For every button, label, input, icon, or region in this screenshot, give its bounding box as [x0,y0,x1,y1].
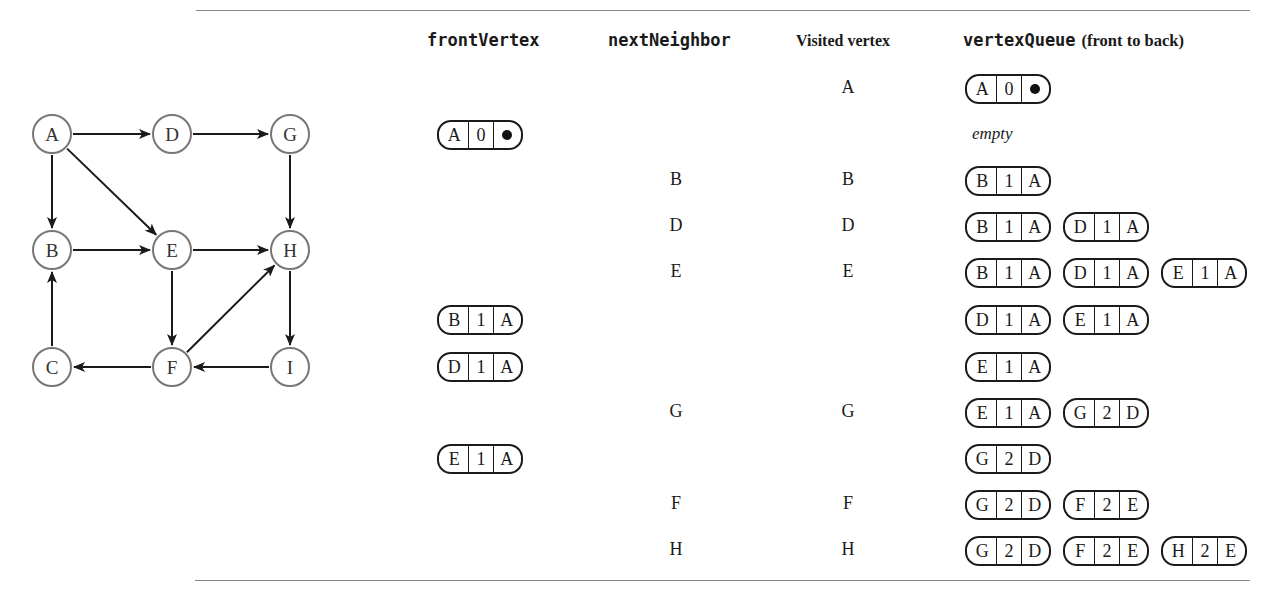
cropped-caption-fragment [890,0,950,1]
pill-predecessor: A [1022,260,1049,286]
queue-node: B1A [965,212,1051,242]
pill-length: 1 [468,307,495,333]
header-vertex-queue-label: vertexQueue [963,30,1076,50]
pill-predecessor: A [1022,400,1049,426]
pill-length: 2 [996,446,1023,472]
pill-length: 2 [1094,538,1121,564]
pill-vertex: G [967,538,996,564]
front-vertex-node: E1A [437,444,523,474]
next-neighbor-cell: B [666,169,686,190]
queue-node: F2E [1063,490,1149,520]
table-row: B1AD1AE1A [0,304,1282,334]
next-neighbor-cell: G [666,401,686,422]
vertex-queue-cell: G2DF2E [965,490,1149,520]
pill-length: 1 [1192,260,1219,286]
vertex-queue-cell: A0 [965,74,1051,104]
queue-node: G2D [965,444,1051,474]
pill-vertex: H [1163,538,1192,564]
pill-vertex: E [1065,307,1094,333]
pill-predecessor: A [494,354,521,380]
pill-predecessor [494,122,521,148]
visited-vertex-cell: B [838,169,858,190]
table-row: HHG2DF2EH2E [0,535,1282,565]
front-vertex-cell: A0 [437,120,523,150]
table-row: GGE1AG2D [0,397,1282,427]
pill-vertex: E [967,400,996,426]
pill-vertex: E [439,446,468,472]
front-vertex-cell: B1A [437,305,523,335]
pill-length: 1 [996,168,1023,194]
visited-vertex-cell: H [838,539,858,560]
pill-predecessor: D [1120,400,1147,426]
pill-vertex: E [1163,260,1192,286]
vertex-queue-cell: G2DF2EH2E [965,536,1247,566]
pill-predecessor: A [1120,260,1147,286]
pill-length: 2 [1192,538,1219,564]
visited-vertex-cell: D [838,215,858,236]
queue-empty-label: empty [972,124,1013,144]
bottom-rule [195,580,1250,581]
vertex-queue-cell: B1AD1AE1A [965,258,1247,288]
queue-node: E1A [965,352,1051,382]
vertex-queue-cell: E1AG2D [965,398,1149,428]
null-pointer-dot-icon [1030,84,1040,94]
pill-vertex: G [967,446,996,472]
queue-node: G2D [965,490,1051,520]
queue-node: H2E [1161,536,1247,566]
pill-length: 1 [996,214,1023,240]
table-row: DDB1AD1A [0,211,1282,241]
pill-predecessor: A [1022,214,1049,240]
queue-node: A0 [965,74,1051,104]
queue-node: E1A [965,398,1051,428]
queue-node: B1A [965,166,1051,196]
table-row: A0empty [0,119,1282,149]
pill-predecessor: A [1022,168,1049,194]
header-front-vertex: frontVertex [427,30,540,50]
pill-predecessor: A [494,307,521,333]
null-pointer-dot-icon [502,130,512,140]
vertex-queue-cell: B1A [965,166,1051,196]
front-vertex-cell: D1A [437,352,523,382]
pill-predecessor: E [1218,538,1245,564]
pill-vertex: G [1065,400,1094,426]
queue-node: G2D [965,536,1051,566]
vertex-queue-cell: D1AE1A [965,305,1149,335]
visited-vertex-cell: G [838,401,858,422]
pill-predecessor: E [1120,538,1147,564]
pill-vertex: A [967,76,996,102]
pill-predecessor: E [1120,492,1147,518]
next-neighbor-cell: F [666,493,686,514]
front-vertex-node: D1A [437,352,523,382]
pill-predecessor: A [1022,354,1049,380]
visited-vertex-cell: A [838,77,858,98]
next-neighbor-cell: D [666,215,686,236]
pill-predecessor: A [1218,260,1245,286]
pill-length: 1 [996,400,1023,426]
pill-predecessor: A [1120,307,1147,333]
pill-length: 2 [1094,400,1121,426]
pill-length: 1 [468,354,495,380]
queue-node: D1A [1063,212,1149,242]
queue-node: G2D [1063,398,1149,428]
top-rule [196,10,1250,11]
table-row: BBB1A [0,165,1282,195]
next-neighbor-cell: E [666,261,686,282]
front-vertex-node: A0 [437,120,523,150]
pill-length: 0 [996,76,1023,102]
pill-length: 1 [1094,214,1121,240]
queue-node: E1A [1063,305,1149,335]
queue-node: E1A [1161,258,1247,288]
table-row: EEB1AD1AE1A [0,257,1282,287]
queue-node: F2E [1063,536,1149,566]
pill-vertex: B [967,168,996,194]
pill-predecessor: A [494,446,521,472]
pill-vertex: D [1065,260,1094,286]
pill-vertex: F [1065,538,1094,564]
pill-length: 2 [996,492,1023,518]
pill-length: 1 [996,260,1023,286]
vertex-queue-cell: B1AD1A [965,212,1149,242]
pill-predecessor: D [1022,446,1049,472]
pill-vertex: F [1065,492,1094,518]
pill-predecessor: A [1022,307,1049,333]
visited-vertex-cell: E [838,261,858,282]
